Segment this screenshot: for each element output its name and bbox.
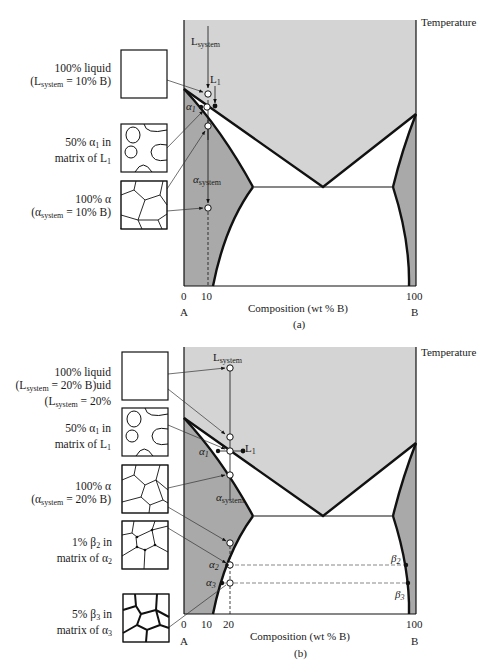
- micrograph-beta3-in-alpha3-b: [123, 594, 169, 642]
- point-beta3-b: [406, 581, 410, 585]
- end-label-A-a: A: [180, 306, 188, 318]
- point-beta2-b: [404, 563, 408, 567]
- caption-b: (b): [294, 647, 307, 659]
- L-system-label-b: Lsystem: [213, 351, 242, 367]
- end-label-B-a: B: [411, 306, 418, 318]
- point-L1-a: [213, 104, 218, 109]
- caption-full-alpha-a: 100% α (αsystem = 10% B): [31, 193, 111, 222]
- L1-label-b: L1: [245, 442, 256, 458]
- temperature-label-b: Temperature: [421, 346, 476, 358]
- phase-diagram-b: [122, 347, 416, 642]
- alpha-system-label-a: αsystem: [193, 173, 221, 189]
- caption-liquid-b: 100% liquid (Lsystem = 20% B)uid (Lsyste…: [16, 366, 111, 411]
- end-label-A-b: A: [180, 635, 188, 647]
- micrograph-liquid-b: [122, 352, 168, 400]
- beta2-label-b: β2: [391, 552, 400, 568]
- point-solvus-b: [227, 540, 233, 546]
- end-label-B-b: B: [411, 635, 418, 647]
- point-liquidus-b: [227, 434, 233, 440]
- micrograph-full-alpha-a: [121, 181, 167, 229]
- L1-label-a: L1: [210, 73, 221, 89]
- point-L-system-a: [205, 91, 211, 97]
- micrograph-alpha-in-liquid-b: [122, 408, 168, 456]
- point-tie-center-a: [204, 104, 210, 110]
- micrograph-liquid-a: [121, 50, 167, 98]
- point-alpha1-a: [199, 105, 203, 109]
- caption-full-alpha-b: 100% α (αsystem = 20% B): [31, 480, 111, 509]
- alpha2-label-b: α2: [209, 558, 219, 574]
- x-axis-label-a: Composition (wt % B): [248, 302, 348, 314]
- phase-diagram-a: [121, 20, 416, 286]
- caption-liquid-a: 100% liquid (Lsystem = 10% B): [30, 62, 111, 91]
- alpha3-label-b: α3: [206, 576, 216, 592]
- x-axis-label-b: Composition (wt % B): [250, 630, 350, 642]
- point-alpha3-b: [220, 581, 224, 585]
- point-mid-a: [205, 123, 211, 129]
- point-tie-center-b: [227, 448, 233, 454]
- tick-10-b: 10: [201, 618, 212, 630]
- tick-0-a: 0: [181, 290, 187, 302]
- tick-20-b: 20: [223, 618, 234, 630]
- micrograph-alpha-in-liquid-a: [121, 124, 167, 172]
- alpha1-label-b: α1: [199, 445, 209, 461]
- L-system-label-a: Lsystem: [191, 35, 220, 51]
- eutectic-phase-diagram-figure: [0, 0, 495, 671]
- point-alpha1-b: [216, 449, 220, 453]
- beta3-label-b: β3: [395, 588, 404, 604]
- alpha1-label-a: α1: [186, 100, 196, 116]
- tick-100-b: 100: [406, 618, 423, 630]
- tick-100-a: 100: [406, 290, 423, 302]
- temperature-label-a: Temperature: [421, 16, 476, 28]
- point-alpha3-circle-b: [227, 580, 233, 586]
- caption-alpha-in-liquid-b: 50% α1 in matrix of L1: [55, 422, 111, 454]
- micrograph-beta2-in-alpha2-b: [122, 521, 168, 569]
- tick-0-b: 0: [181, 618, 187, 630]
- point-alpha2-dot-b: [225, 563, 229, 567]
- alpha-system-label-b: αsystem: [216, 491, 244, 507]
- point-alpha-system-a: [205, 205, 211, 211]
- micrograph-full-alpha-b: [122, 465, 168, 513]
- tick-10-a: 10: [201, 290, 212, 302]
- point-alpha-system-b: [227, 472, 233, 478]
- caption-beta2-b: 1% β2 in matrix of α2: [57, 536, 112, 568]
- caption-a: (a): [293, 318, 305, 330]
- caption-beta3-b: 5% β3 in matrix of α3: [57, 608, 112, 640]
- caption-alpha-in-liquid-a: 50% α1 in matrix of L1: [55, 136, 111, 168]
